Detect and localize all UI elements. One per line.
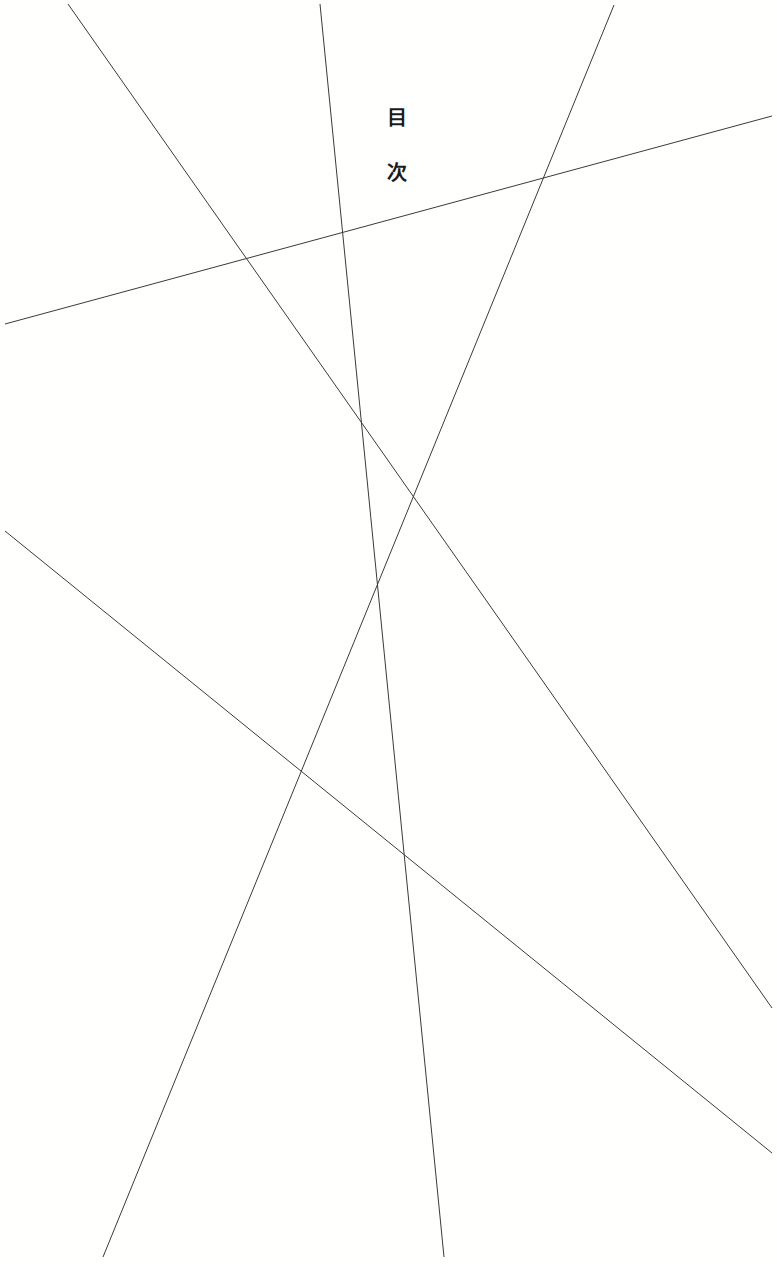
title-char-1: 目 — [387, 108, 407, 128]
table-of-contents-page: 目 次 — [0, 0, 777, 1264]
decorative-line — [103, 5, 614, 1257]
page-title: 目 次 — [383, 108, 411, 183]
decorative-lines — [0, 0, 777, 1264]
decorative-line — [5, 531, 772, 1153]
decorative-line — [68, 4, 772, 1008]
title-char-2: 次 — [387, 163, 407, 183]
decorative-line — [320, 4, 444, 1257]
